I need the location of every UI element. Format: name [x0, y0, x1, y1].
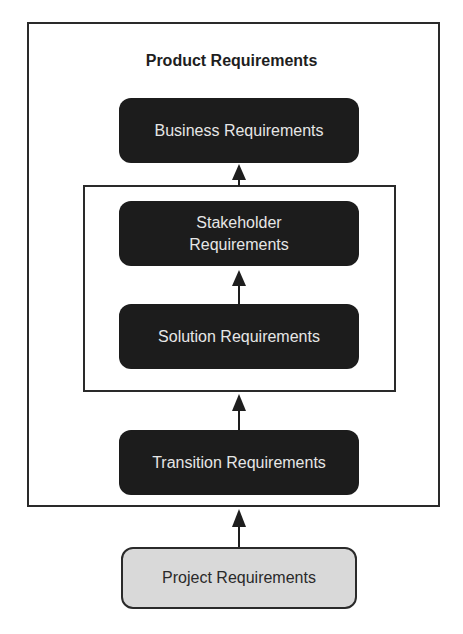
arrow-up-icon: [232, 509, 246, 547]
arrow-up-icon: [232, 270, 246, 304]
arrow-up-icon: [232, 394, 246, 430]
arrows-layer: [0, 0, 463, 634]
arrow-up-icon: [232, 164, 246, 186]
